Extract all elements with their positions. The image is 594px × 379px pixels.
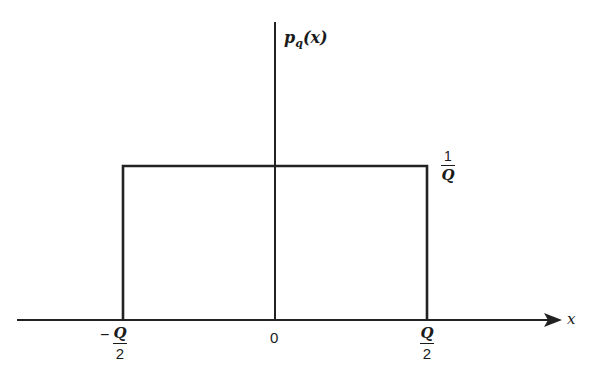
x-axis-label: x (567, 312, 575, 327)
y-axis-label: pq(x) (284, 30, 328, 49)
tick-right-denominator: 2 (423, 346, 431, 361)
height-label-denominator: Q (441, 168, 454, 183)
tick-left: Q 2 (113, 326, 127, 361)
tick-center: 0 (270, 330, 278, 345)
tick-right: Q 2 (420, 326, 434, 361)
height-label-numerator: 1 (444, 149, 452, 163)
tick-left-sign: − (100, 327, 109, 343)
y-label-base: p (284, 28, 295, 47)
uniform-pdf-diagram: pq(x) 1 Q x − Q 2 0 Q 2 (0, 0, 594, 379)
fraction-bar (113, 343, 127, 344)
tick-right-numerator: Q (420, 326, 433, 341)
diagram-canvas (0, 0, 594, 379)
y-label-subscript: q (295, 37, 303, 50)
y-label-argument: (x) (303, 28, 328, 47)
tick-left-denominator: 2 (116, 346, 124, 361)
height-label: 1 Q (441, 149, 455, 183)
tick-left-numerator: Q (113, 326, 126, 341)
fraction-bar (420, 343, 434, 344)
